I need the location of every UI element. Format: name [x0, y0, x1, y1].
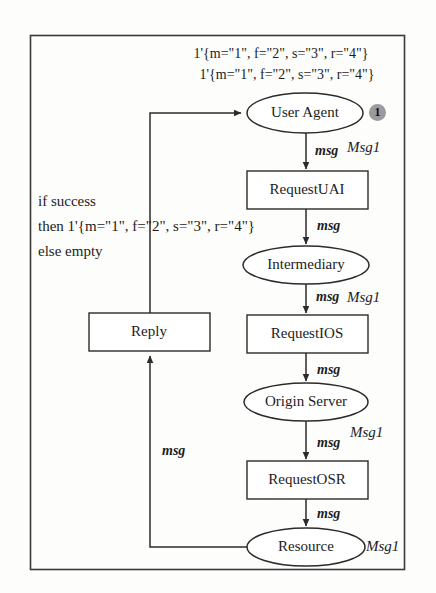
place-origin-server-type-label: Msg1 — [350, 424, 383, 442]
arc-label-intermediary-to-request-ios: msg — [316, 289, 339, 306]
initial-marking-line-2: 1'{m="1", f="2", s="3", r="4"} — [200, 67, 375, 84]
guard-annotation-line-3: else empty — [38, 243, 103, 261]
transition-reply-label: Reply — [131, 323, 167, 341]
place-resource-type-label: Msg1 — [366, 538, 399, 556]
arc-label-user-agent-to-request-uai: msg — [315, 143, 338, 160]
petri-net-figure: 1'{m="1", f="2", s="3", r="4"} 1'{m="1",… — [0, 0, 436, 593]
place-user-agent-type-label: Msg1 — [347, 139, 380, 157]
arc-label-request-uai-to-intermediary: msg — [317, 218, 340, 235]
initial-marking-line-1: 1'{m="1", f="2", s="3", r="4"} — [194, 46, 369, 63]
place-origin-server-label: Origin Server — [265, 393, 347, 411]
place-intermediary-type-label: Msg1 — [347, 289, 380, 307]
arc-label-request-ios-to-origin-server: msg — [317, 362, 340, 379]
place-user-agent-token-count: 1 — [369, 104, 386, 121]
arc-label-origin-server-to-request-osr: msg — [317, 435, 340, 452]
arc-label-request-osr-to-resource: msg — [317, 506, 340, 523]
place-resource-label: Resource — [278, 538, 334, 556]
guard-annotation-line-2: then 1'{m="1", f="2", s="3", r="4"} — [38, 218, 255, 236]
arc-reply-to-user-agent — [150, 113, 241, 313]
place-user-agent-label: User Agent — [271, 104, 339, 122]
transition-request-ios-label: RequestIOS — [271, 325, 344, 343]
transition-request-osr-label: RequestOSR — [268, 471, 346, 489]
place-intermediary-label: Intermediary — [267, 256, 344, 274]
arc-label-resource-to-reply: msg — [162, 443, 185, 460]
guard-annotation-line-1: if success — [38, 193, 96, 211]
transition-request-uai-label: RequestUAI — [270, 181, 345, 199]
